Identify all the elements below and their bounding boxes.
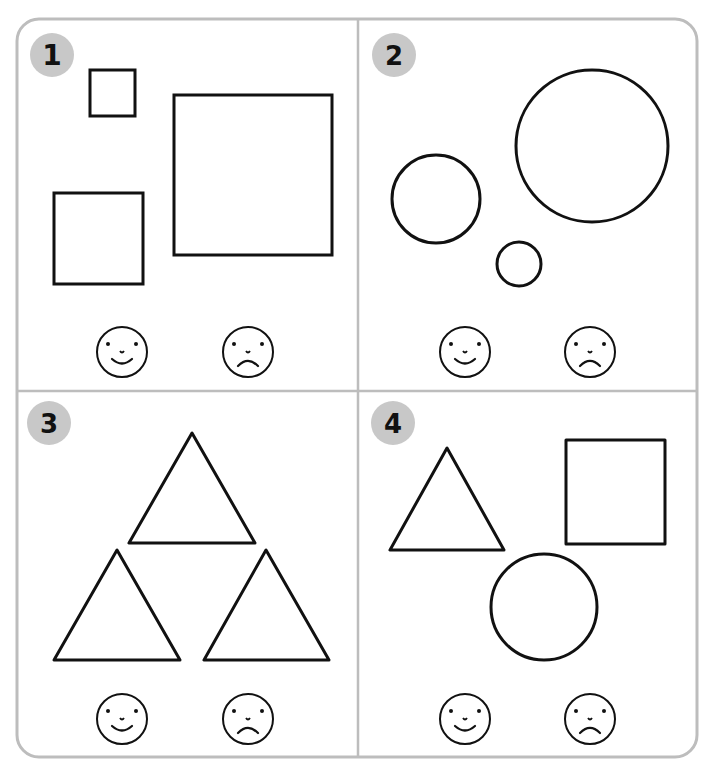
panel-4-shapes — [390, 440, 665, 660]
panel-2-badge: 2 — [372, 33, 416, 77]
panel-4-badge: 4 — [371, 401, 415, 445]
medium-square — [54, 193, 143, 284]
triangle — [390, 448, 504, 550]
happy-face-icon[interactable] — [97, 327, 147, 377]
panel-2-shapes — [392, 70, 668, 286]
medium-circle — [392, 155, 480, 243]
circle — [491, 554, 597, 660]
svg-text:2: 2 — [385, 41, 403, 71]
triangle-right — [204, 550, 329, 660]
small-circle — [497, 242, 541, 286]
small-square — [90, 70, 135, 116]
happy-face-icon[interactable] — [440, 327, 490, 377]
triangle-top — [129, 433, 255, 543]
panel-1-shapes — [54, 70, 332, 284]
sad-face-icon[interactable] — [223, 694, 273, 744]
large-circle — [516, 70, 668, 222]
triangle-left — [54, 550, 180, 660]
panel-3-shapes — [54, 433, 329, 660]
panel-3-badge: 3 — [27, 401, 71, 445]
sad-face-icon[interactable] — [565, 327, 615, 377]
happy-face-icon[interactable] — [97, 694, 147, 744]
happy-face-icon[interactable] — [440, 694, 490, 744]
sad-face-icon[interactable] — [565, 694, 615, 744]
large-square — [174, 95, 332, 255]
worksheet: 1 2 3 4 — [0, 0, 709, 767]
sad-face-icon[interactable] — [223, 327, 273, 377]
svg-text:3: 3 — [40, 409, 58, 439]
svg-text:4: 4 — [384, 409, 402, 439]
svg-text:1: 1 — [42, 39, 61, 72]
square — [566, 440, 665, 544]
panel-1-badge: 1 — [30, 33, 74, 77]
